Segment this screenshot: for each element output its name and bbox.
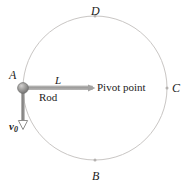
rod-label: Rod xyxy=(39,92,57,103)
initial-velocity-label: v0 xyxy=(9,121,18,132)
circle-point-marker-icon-c xyxy=(166,87,169,90)
arrowhead-icon xyxy=(18,121,27,130)
rod-length-label: L xyxy=(55,75,61,86)
pivot-marker-icon xyxy=(88,84,95,91)
point-label-b: B xyxy=(92,170,99,182)
velocity-subscript: 0 xyxy=(14,125,18,134)
point-label-d: D xyxy=(91,5,100,17)
rod-shape xyxy=(26,86,93,91)
point-label-a: A xyxy=(9,69,16,81)
ball-icon xyxy=(18,83,29,94)
pivot-point-label: Pivot point xyxy=(97,82,146,93)
point-label-c: C xyxy=(172,82,180,94)
physics-diagram-canvas xyxy=(0,0,189,186)
circle-point-marker-icon-b xyxy=(94,159,97,162)
